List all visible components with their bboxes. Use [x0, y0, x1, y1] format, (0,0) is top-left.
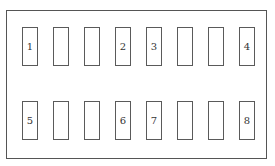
slot-label: 6 — [120, 116, 126, 126]
slot-label: 2 — [120, 42, 126, 52]
slot-label: 1 — [27, 42, 33, 52]
slot-bottom-4: 6 — [115, 101, 131, 140]
slot-top-4: 2 — [115, 27, 131, 66]
slot-bottom-6 — [177, 101, 193, 140]
slot-bottom-2 — [53, 101, 69, 140]
slot-top-5: 3 — [146, 27, 162, 66]
slot-bottom-3 — [84, 101, 100, 140]
slot-top-6 — [177, 27, 193, 66]
slot-top-8: 4 — [239, 27, 255, 66]
slot-top-1: 1 — [22, 27, 38, 66]
slot-bottom-1: 5 — [22, 101, 38, 140]
slot-top-3 — [84, 27, 100, 66]
slot-top-2 — [53, 27, 69, 66]
slot-bottom-7 — [208, 101, 224, 140]
slot-label: 4 — [244, 42, 250, 52]
slot-label: 8 — [244, 116, 250, 126]
outer-frame — [6, 10, 267, 159]
slot-label: 5 — [27, 116, 33, 126]
slot-bottom-5: 7 — [146, 101, 162, 140]
slot-label: 7 — [151, 116, 157, 126]
slot-top-7 — [208, 27, 224, 66]
slot-label: 3 — [151, 42, 157, 52]
slot-bottom-8: 8 — [239, 101, 255, 140]
